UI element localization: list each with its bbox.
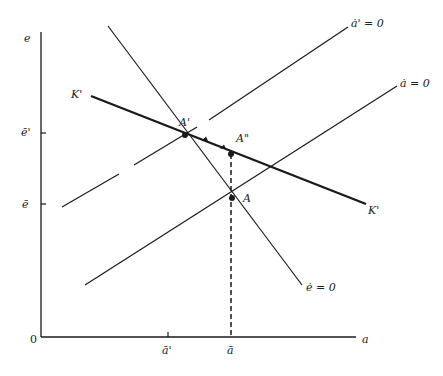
origin-label: 0 bbox=[30, 334, 37, 345]
e-dot-zero-line bbox=[108, 26, 302, 285]
point-a bbox=[229, 195, 235, 201]
a-dot-prime-zero-label: ȧ' = 0 bbox=[351, 18, 384, 29]
e-dot-zero-label: ė = 0 bbox=[306, 282, 336, 293]
y-tick-label-e-bar-prime: ē' bbox=[21, 127, 31, 138]
y-axis-label: e bbox=[24, 33, 31, 44]
point-a-double-prime-label: A" bbox=[236, 133, 249, 144]
point-a-prime-label: A' bbox=[179, 117, 190, 128]
a-dot-zero-label: ȧ = 0 bbox=[400, 78, 430, 89]
saddle-path-label-left: K' bbox=[71, 89, 82, 100]
x-tick-label-a-bar-prime: ā' bbox=[162, 345, 172, 356]
saddle-path-label-right: K' bbox=[368, 205, 379, 216]
x-tick-label-a-bar: ā bbox=[227, 345, 234, 356]
x-axis-label: a bbox=[362, 334, 369, 345]
point-a-label: A bbox=[243, 193, 251, 204]
y-tick-label-e-bar: ē bbox=[22, 199, 29, 210]
point-a-double-prime bbox=[228, 151, 234, 157]
phase-diagram bbox=[0, 0, 443, 376]
a-dot-zero-line bbox=[85, 86, 397, 285]
point-a-prime bbox=[182, 132, 188, 138]
